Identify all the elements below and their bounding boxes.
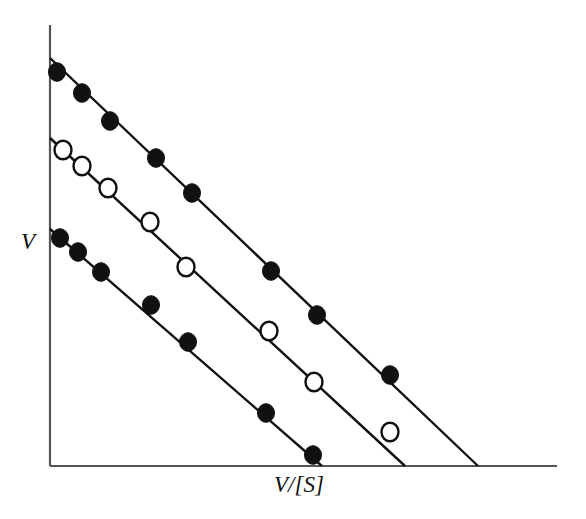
filled-data-point <box>309 306 326 325</box>
eadie-hofstee-plot-figure: V V/[S] <box>0 0 586 519</box>
x-axis-label: V/[S] <box>274 472 324 498</box>
filled-data-point <box>148 149 165 168</box>
open-data-point <box>178 258 195 277</box>
filled-data-point <box>305 446 322 465</box>
open-data-point <box>382 423 399 442</box>
filled-data-point <box>263 262 280 281</box>
filled-data-point <box>382 366 399 385</box>
y-axis-label: V <box>21 229 35 255</box>
open-data-point <box>306 373 323 392</box>
open-data-point <box>261 322 278 341</box>
filled-data-point <box>102 112 119 131</box>
data-point-markers <box>49 63 399 465</box>
plot-canvas <box>0 0 586 519</box>
filled-data-point <box>258 404 275 423</box>
open-data-point <box>100 179 117 198</box>
filled-data-point <box>70 243 87 262</box>
open-data-point <box>55 141 72 160</box>
filled-data-point <box>49 63 66 82</box>
filled-data-point <box>74 84 91 103</box>
filled-data-point <box>180 333 197 352</box>
filled-data-point <box>143 296 160 315</box>
filled-data-point <box>52 229 69 248</box>
filled-data-point <box>93 263 110 282</box>
open-data-point <box>142 213 159 232</box>
filled-data-point <box>184 184 201 203</box>
axes <box>50 25 557 466</box>
open-data-point <box>74 157 91 176</box>
